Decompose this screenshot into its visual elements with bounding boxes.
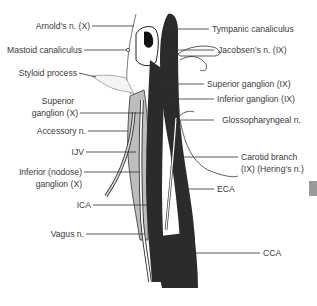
label-superior-ganglion-x-line2: ganglion (X) — [32, 108, 78, 118]
label-cca: CCA — [263, 248, 281, 258]
label-vagus-nerve: Vagus n. — [51, 229, 84, 239]
label-inferior-ganglion-ix: Inferior ganglion (IX) — [217, 94, 295, 104]
label-mastoid-canaliculus: Mastoid canaliculus — [7, 45, 82, 55]
label-accessory-nerve: Accessory n. — [37, 126, 86, 136]
cca-shape — [159, 232, 198, 288]
label-carotid-branch-line1: Carotid branch — [241, 152, 297, 162]
label-inferior-nodose-ganglion-line2: ganglion (X) — [36, 179, 82, 189]
carotid-branch-shape — [180, 120, 238, 177]
label-superior-ganglion-x-line1: Superior — [38, 96, 78, 106]
label-ijv: IJV — [72, 147, 84, 157]
edge-tab-marker — [309, 181, 317, 196]
label-ica: ICA — [77, 200, 91, 210]
ijv-shape — [128, 90, 149, 240]
label-tympanic-canaliculus: Tympanic canaliculus — [212, 24, 294, 34]
label-jacobsens-nerve: Jacobsen’s n. (IX) — [218, 45, 287, 55]
label-arnolds-nerve: Arnold’s n. (X) — [36, 21, 90, 31]
label-carotid-branch-line2: (IX) (Hering’s n.) — [241, 164, 304, 174]
label-superior-ganglion-ix: Superior ganglion (IX) — [207, 79, 291, 89]
label-eca: ECA — [217, 184, 235, 194]
styloid-process-shape — [92, 75, 134, 94]
label-styloid-process: Styloid process — [19, 68, 77, 78]
label-inferior-nodose-ganglion-line1: Inferior (nodose) — [19, 167, 82, 177]
anatomy-diagram: Arnold’s n. (X) Mastoid canaliculus Styl… — [0, 0, 317, 306]
label-glossopharyngeal-nerve: Glossopharyngeal n. — [222, 115, 301, 125]
